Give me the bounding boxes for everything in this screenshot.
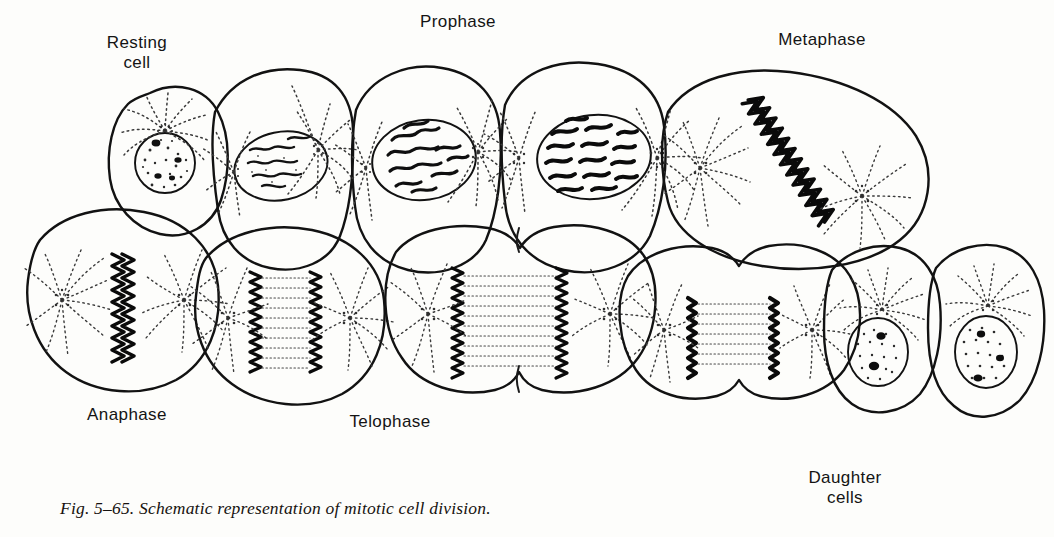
- figure-caption: Fig. 5–65. Schematic representation of m…: [60, 498, 491, 519]
- cell-telophase: [385, 225, 655, 392]
- cell-anaphase: [24, 209, 230, 391]
- cell-early-prophase: [202, 69, 358, 269]
- label-telophase: Telophase: [330, 412, 450, 432]
- cell-late-anaphase: [190, 227, 394, 404]
- label-anaphase: Anaphase: [72, 405, 182, 425]
- label-metaphase: Metaphase: [757, 30, 887, 50]
- cell-resting: [109, 87, 228, 236]
- cell-metaphase: [662, 71, 929, 269]
- cell-mid-prophase: [334, 67, 519, 273]
- figure-container: Resting cell Prophase Metaphase Anaphase…: [0, 0, 1054, 537]
- cell-daughter-right: [928, 245, 1044, 417]
- label-daughter-cells: Daughter cells: [790, 468, 900, 508]
- mitosis-diagram: [0, 0, 1054, 537]
- cell-daughter-left: [824, 246, 941, 412]
- label-prophase: Prophase: [398, 12, 518, 32]
- label-resting-cell: Resting cell: [82, 33, 192, 73]
